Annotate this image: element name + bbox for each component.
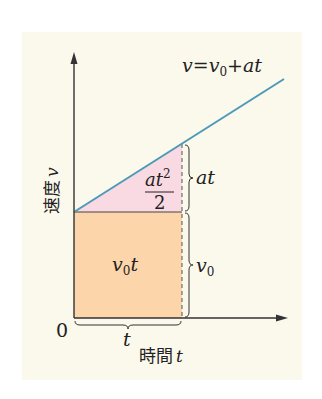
triangle-denominator: 2 xyxy=(154,192,165,213)
brace-v0-label: v0 xyxy=(196,254,214,279)
brace-t-label: t xyxy=(123,328,131,350)
equation-label: v=v0+at xyxy=(182,54,262,79)
brace-v0-icon xyxy=(185,213,193,317)
vt-graph: v=v0+at at2 2 v0t at v0 t 0 時間t 速度v xyxy=(0,0,322,399)
origin-label: 0 xyxy=(56,319,68,341)
svg-text:速度v: 速度v xyxy=(42,167,62,214)
x-axis-arrow-icon xyxy=(276,315,288,322)
y-axis-label: 速度v xyxy=(42,167,62,214)
y-axis-arrow-icon xyxy=(71,52,78,64)
brace-at-label: at xyxy=(196,166,215,188)
x-axis-label: 時間t xyxy=(139,346,183,366)
brace-at-icon xyxy=(185,145,193,211)
